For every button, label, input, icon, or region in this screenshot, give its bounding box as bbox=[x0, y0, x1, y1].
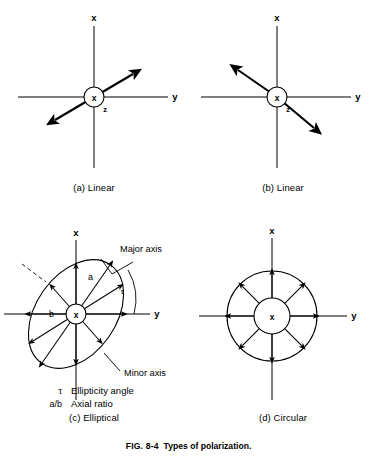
panel-c-x-axis-label: x bbox=[73, 227, 79, 238]
panel-c-major-axis-leader2 bbox=[101, 259, 112, 274]
figure-caption-text: Types of polarization. bbox=[164, 441, 252, 451]
panel-c-minor-axis-label: Minor axis bbox=[124, 368, 166, 378]
panel-d-vector-se bbox=[285, 329, 302, 346]
panel-d-x-axis-label: x bbox=[269, 225, 275, 236]
panel-c-major-axis-label: Major axis bbox=[120, 244, 162, 254]
figure-types-of-polarization: x x y z x x y z bbox=[0, 0, 377, 463]
panel-a-linear-diagram: x x y z bbox=[0, 8, 188, 180]
panel-a-x-axis-label: x bbox=[91, 12, 97, 23]
panel-a-z-axis-label: z bbox=[103, 105, 107, 114]
legend-text-ellipticity-angle: Ellipticity angle bbox=[71, 385, 134, 398]
panel-d-svg: x x y bbox=[189, 228, 377, 410]
panel-d-vector-sw bbox=[242, 329, 259, 346]
panel-c-caption: (c) Elliptical bbox=[0, 412, 188, 423]
legend-item-ellipticity-angle: τ Ellipticity angle bbox=[36, 385, 134, 398]
panel-b-svg: x x y z bbox=[189, 8, 377, 180]
panel-d-hub-label: x bbox=[270, 312, 275, 322]
symbol-legend: τ Ellipticity angle a/b Axial ratio bbox=[36, 385, 134, 410]
legend-symbol-axial-ratio: a/b bbox=[36, 398, 71, 411]
panel-b-x-axis-label: x bbox=[274, 12, 280, 23]
panel-b-linear-diagram: x x y z bbox=[189, 8, 377, 180]
panel-d-circular-diagram: x x y bbox=[189, 228, 377, 410]
figure-caption: FIG. 8-4 Types of polarization. bbox=[0, 441, 377, 451]
panel-b-caption: (b) Linear bbox=[189, 182, 377, 193]
panel-c-minor-axis-extension bbox=[22, 264, 46, 282]
panel-c-y-axis-label: y bbox=[154, 308, 160, 319]
panel-c-hub-label: x bbox=[74, 310, 79, 320]
panel-c-major-axis-leader bbox=[112, 262, 133, 274]
panel-d-caption: (d) Circular bbox=[189, 412, 377, 423]
panel-c-elliptical-diagram: τ Major axis Minor axis a b x x y bbox=[0, 228, 188, 410]
panel-c-semi-major-label: a bbox=[88, 272, 93, 282]
panel-c-svg: τ Major axis Minor axis a b x x y bbox=[0, 228, 188, 410]
legend-text-axial-ratio: Axial ratio bbox=[71, 398, 113, 411]
panel-a-y-axis-label: y bbox=[172, 91, 178, 102]
panel-c-semi-minor-label: b bbox=[49, 309, 54, 319]
legend-symbol-tau: τ bbox=[36, 385, 71, 398]
panel-a-svg: x x y z bbox=[0, 8, 188, 180]
panel-b-y-axis-label: y bbox=[355, 91, 361, 102]
panel-d-vector-ne bbox=[285, 286, 302, 303]
legend-item-axial-ratio: a/b Axial ratio bbox=[36, 398, 134, 411]
panel-d-vector-nw bbox=[242, 286, 259, 303]
figure-number: FIG. 8-4 bbox=[126, 441, 159, 451]
panel-d-y-axis-label: y bbox=[351, 310, 357, 321]
panel-c-minor-axis-leader bbox=[104, 353, 120, 371]
panel-b-z-axis-label: z bbox=[286, 105, 290, 114]
panel-a-caption: (a) Linear bbox=[0, 182, 188, 193]
panel-c-tau-arc bbox=[128, 270, 136, 314]
panel-a-hub-label: x bbox=[92, 93, 97, 103]
panel-b-hub-label: x bbox=[275, 93, 280, 103]
